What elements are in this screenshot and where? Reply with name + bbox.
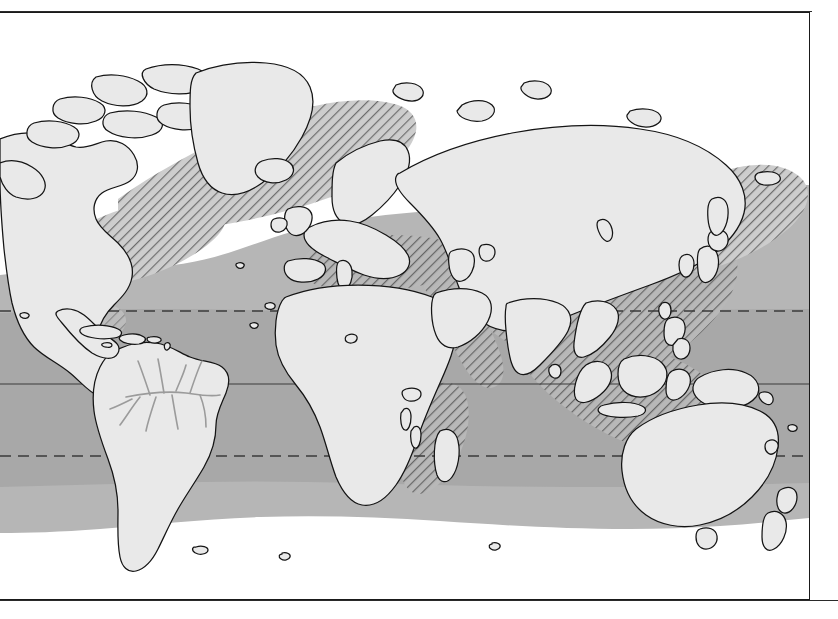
land-island-severnaya [521, 81, 551, 99]
land-island-fiji [788, 425, 797, 432]
land-jamaica [102, 343, 112, 348]
bottom-rule [0, 600, 838, 601]
land-island-hawaii [20, 313, 29, 319]
land-arctic-archipelago-4 [103, 111, 162, 138]
land-island-aral [479, 244, 495, 261]
land-ireland [271, 218, 287, 232]
land-island-lake-chad [345, 334, 357, 343]
land-island-lake-tanganyika [401, 408, 411, 430]
land-iberia [284, 259, 325, 283]
land-iceland [255, 159, 293, 183]
land-island-azores [236, 263, 244, 269]
land-island-taiwan [659, 302, 671, 319]
land-island-new-siberian [627, 109, 661, 127]
land-island-svalbard [393, 83, 423, 101]
land-arctic-archipelago-1 [92, 75, 147, 106]
land-island-new-caledonia [765, 440, 778, 454]
land-island-cape-verde [250, 323, 258, 329]
land-java [598, 402, 645, 417]
map-frame [0, 12, 810, 600]
land-island-south-georgia [279, 553, 290, 560]
land-puerto-rico [147, 337, 161, 343]
land-arctic-archipelago-5 [27, 121, 79, 148]
figure-page [0, 0, 838, 619]
land-island-lake-victoria [402, 388, 421, 401]
land-island-canaries [265, 303, 275, 310]
land-sri-lanka [549, 364, 561, 378]
land-korea [679, 254, 694, 277]
world-map [0, 13, 810, 600]
land-hispaniola [119, 334, 145, 344]
land-island-falklands [193, 546, 208, 554]
land-island-novaya-zemlya [457, 101, 494, 122]
land-new-zealand-south [762, 511, 786, 550]
land-island-aleutians [755, 172, 780, 186]
land-island-kerguelen [489, 543, 500, 550]
land-island-lake-malawi [411, 426, 421, 448]
land-tasmania [696, 528, 717, 549]
land-philippines-2 [673, 338, 690, 359]
land-arctic-archipelago-3 [53, 97, 105, 124]
land-lesser-antilles [164, 343, 170, 350]
